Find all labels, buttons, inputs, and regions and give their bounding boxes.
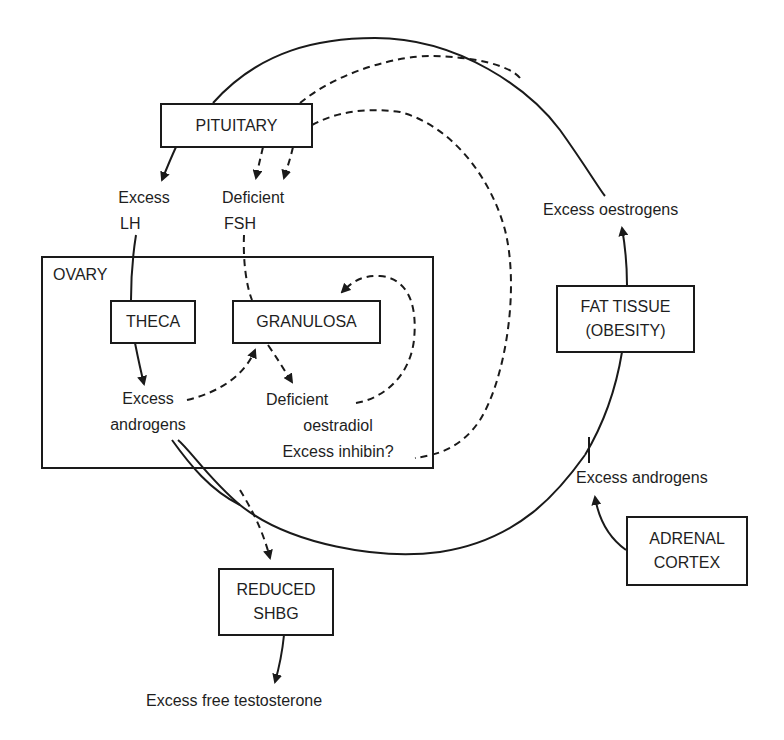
deficient-fsh-line2: FSH (222, 211, 284, 237)
arrow-pituitary-to-fsh-2 (284, 147, 293, 178)
oestradiol-line1: Deficient (262, 387, 414, 413)
reduced-shbg-box: REDUCED SHBG (218, 568, 334, 636)
granulosa-box: GRANULOSA (232, 300, 381, 344)
arrow-fat-to-oestrogens (622, 228, 627, 285)
free-testosterone-label: Excess free testosterone (146, 688, 322, 714)
fat-tissue-box: FAT TISSUE (OBESITY) (556, 285, 695, 353)
excess-lh-label: Excess LH (114, 185, 174, 237)
deficient-fsh-label: Deficient FSH (222, 185, 284, 237)
theca-label: THECA (126, 310, 180, 334)
excess-lh-line1: Excess (114, 185, 174, 211)
cycle-arc-right (585, 352, 622, 455)
theca-box: THECA (110, 300, 196, 344)
oestradiol-line2: oestradiol (262, 413, 414, 439)
oestradiol-label: Deficient oestradiol Excess inhibin? (262, 387, 414, 465)
granulosa-label: GRANULOSA (256, 310, 356, 334)
shbg-line1: REDUCED (236, 578, 315, 602)
ovary-androgens-label: Excess androgens (98, 386, 198, 438)
arrow-androgens-to-shbg (240, 490, 270, 558)
excess-oestrogens-label: Excess oestrogens (543, 197, 678, 223)
adrenal-cortex-box: ADRENAL CORTEX (626, 516, 748, 586)
ovary-androgens-line2: androgens (98, 412, 198, 438)
arrow-shbg-to-testosterone (275, 635, 284, 682)
shbg-line2: SHBG (253, 602, 298, 626)
arrow-pituitary-to-fsh-1 (256, 147, 263, 178)
excess-lh-line2: LH (114, 211, 174, 237)
ovary-androgens-line1: Excess (98, 386, 198, 412)
dashed-arc-outer (300, 56, 520, 103)
fat-tissue-line2: (OBESITY) (585, 319, 665, 343)
pituitary-box: PITUITARY (160, 103, 313, 148)
oestradiol-line3: Excess inhibin? (262, 439, 414, 465)
adrenal-line2: CORTEX (654, 551, 720, 575)
pituitary-label: PITUITARY (195, 114, 277, 138)
arrow-adrenal-to-androgens (595, 497, 626, 550)
adrenal-androgens-label: Excess androgens (576, 465, 708, 491)
fat-tissue-line1: FAT TISSUE (581, 295, 671, 319)
adrenal-line1: ADRENAL (649, 527, 725, 551)
deficient-fsh-line1: Deficient (222, 185, 284, 211)
arrow-pituitary-to-lh (162, 147, 176, 180)
ovary-label: OVARY (53, 266, 108, 284)
